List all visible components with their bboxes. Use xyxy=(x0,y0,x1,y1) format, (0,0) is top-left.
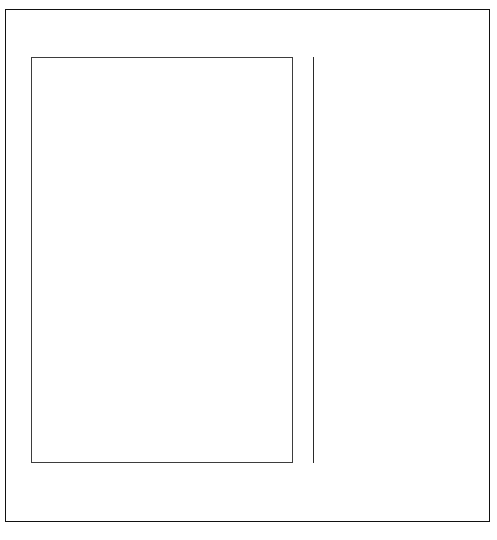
probability-axis xyxy=(313,57,314,463)
plot-area xyxy=(31,57,293,463)
figure-page xyxy=(0,0,497,540)
data-point-layer xyxy=(32,58,292,462)
